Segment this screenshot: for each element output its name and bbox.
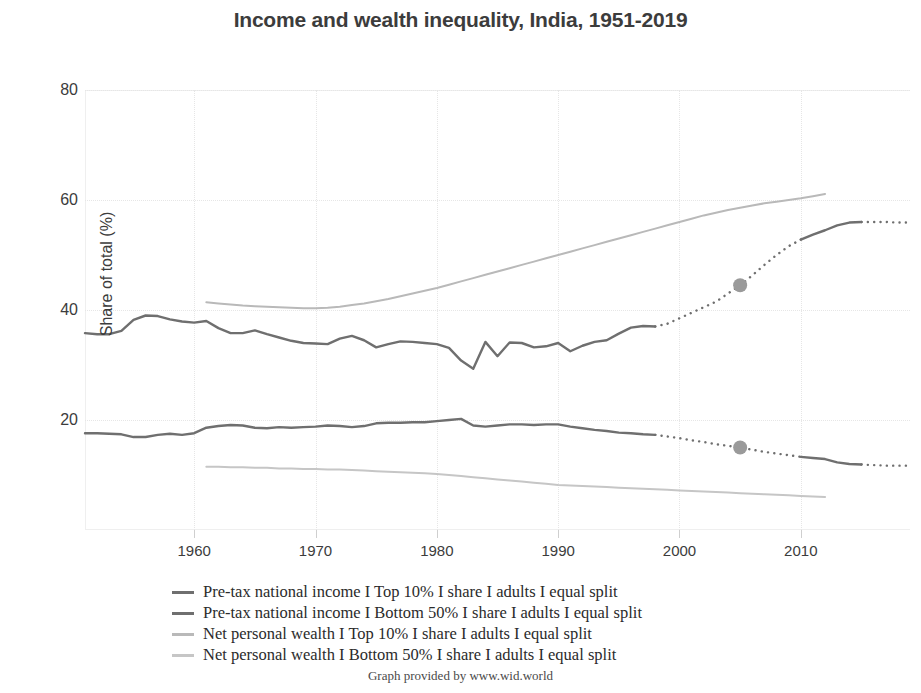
x-axis-tick-label: 1990 xyxy=(523,542,593,559)
series-line-0 xyxy=(801,222,862,240)
legend-swatch-icon xyxy=(172,612,194,615)
y-axis-tick-label: 80 xyxy=(18,81,78,99)
x-axis-tick-mark xyxy=(437,530,438,538)
data-point-marker[interactable] xyxy=(733,441,747,455)
x-axis-tick-mark xyxy=(801,530,802,538)
series-line-1 xyxy=(85,419,655,437)
x-axis-tick-mark xyxy=(558,530,559,538)
series-line-1 xyxy=(801,457,862,465)
series-line-2 xyxy=(206,194,825,308)
legend-swatch-icon xyxy=(172,591,194,594)
x-axis-tick-mark xyxy=(679,530,680,538)
legend-item[interactable]: Net personal wealth I Bottom 50% I share… xyxy=(172,645,792,666)
credit-text: Graph provided by www.wid.world xyxy=(0,668,921,684)
chart-root: Income and wealth inequality, India, 195… xyxy=(0,0,921,693)
x-axis-tick-label: 1980 xyxy=(402,542,472,559)
series-line-3 xyxy=(206,467,825,497)
x-axis-tick-label: 1960 xyxy=(159,542,229,559)
legend-item-label: Pre-tax national income I Bottom 50% I s… xyxy=(203,605,642,622)
series-line-0 xyxy=(861,222,910,223)
y-axis-tick-label: 60 xyxy=(18,191,78,209)
y-axis-tick-label: 20 xyxy=(18,411,78,429)
y-axis-label: Share of total (%) xyxy=(98,174,116,374)
legend-item-label: Net personal wealth I Bottom 50% I share… xyxy=(203,647,616,664)
y-axis-tick-label: 40 xyxy=(18,301,78,319)
x-axis-tick-mark xyxy=(316,530,317,538)
x-axis-tick-label: 1970 xyxy=(281,542,351,559)
data-point-marker[interactable] xyxy=(733,278,747,292)
series-line-1 xyxy=(861,465,910,466)
series-line-0 xyxy=(85,316,655,369)
page-title: Income and wealth inequality, India, 195… xyxy=(0,8,921,32)
series-lines xyxy=(85,90,910,530)
x-axis-tick-label: 2010 xyxy=(766,542,836,559)
series-line-0 xyxy=(655,240,801,327)
legend-item-label: Pre-tax national income I Top 10% I shar… xyxy=(203,584,618,601)
series-line-1 xyxy=(655,435,801,457)
x-axis-tick-mark xyxy=(194,530,195,538)
legend-item-label: Net personal wealth I Top 10% I share I … xyxy=(203,626,592,643)
plot-area: 20406080 196019701980199020002010 Share … xyxy=(85,90,910,530)
legend: Pre-tax national income I Top 10% I shar… xyxy=(172,582,792,666)
legend-item[interactable]: Pre-tax national income I Top 10% I shar… xyxy=(172,582,792,603)
legend-item[interactable]: Net personal wealth I Top 10% I share I … xyxy=(172,624,792,645)
legend-swatch-icon xyxy=(172,633,194,636)
x-axis-tick-label: 2000 xyxy=(644,542,714,559)
legend-item[interactable]: Pre-tax national income I Bottom 50% I s… xyxy=(172,603,792,624)
legend-swatch-icon xyxy=(172,654,194,657)
